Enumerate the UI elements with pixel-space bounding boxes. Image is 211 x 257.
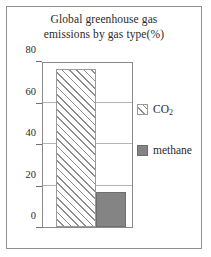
chart-figure: Global greenhouse gas emissions by gas t…: [0, 0, 211, 257]
bar-methane: [96, 192, 126, 227]
chart-legend: CO2methane: [137, 100, 203, 182]
y-axis-ticks: [0, 62, 42, 228]
plot-area: [42, 62, 133, 228]
legend-item-methane[interactable]: methane: [137, 141, 203, 159]
legend-item-co2[interactable]: CO2: [137, 100, 203, 118]
hatched-square-icon: [137, 104, 148, 115]
bar-co2: [56, 69, 96, 227]
legend-label: CO2: [153, 103, 173, 115]
filled-square-icon: [137, 145, 148, 156]
page-title: Global greenhouse gas emissions by gas t…: [14, 12, 194, 42]
y-tick-label-80: 80: [10, 44, 36, 55]
legend-label: methane: [153, 144, 192, 156]
